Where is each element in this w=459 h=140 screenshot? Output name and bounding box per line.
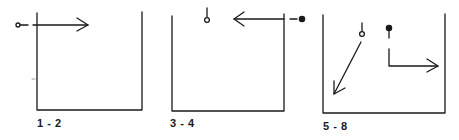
arrow-right-icon — [33, 18, 88, 31]
panel-3-4 — [172, 8, 305, 111]
diagram-canvas — [0, 0, 459, 140]
figure: 1 - 2 3 - 4 5 - 8 — [0, 0, 459, 140]
open-pin-icon — [360, 23, 365, 36]
arrow-left-icon — [234, 12, 284, 26]
panel-5-8 — [323, 14, 445, 113]
panel-label-1-2: 1 - 2 — [37, 117, 62, 129]
arrow-down-left-icon — [334, 42, 361, 94]
open-top-box — [37, 12, 142, 110]
open-pin-icon — [16, 23, 28, 27]
panel-label-5-8: 5 - 8 — [323, 120, 348, 132]
open-top-box — [323, 14, 445, 113]
open-pin-icon — [205, 8, 210, 22]
filled-pin-icon — [386, 25, 391, 38]
open-top-box — [172, 14, 284, 111]
filled-pin-icon — [290, 16, 305, 21]
panel-1-2 — [16, 12, 142, 110]
arrow-down-right-icon — [389, 49, 438, 72]
panel-label-3-4: 3 - 4 — [170, 117, 195, 129]
